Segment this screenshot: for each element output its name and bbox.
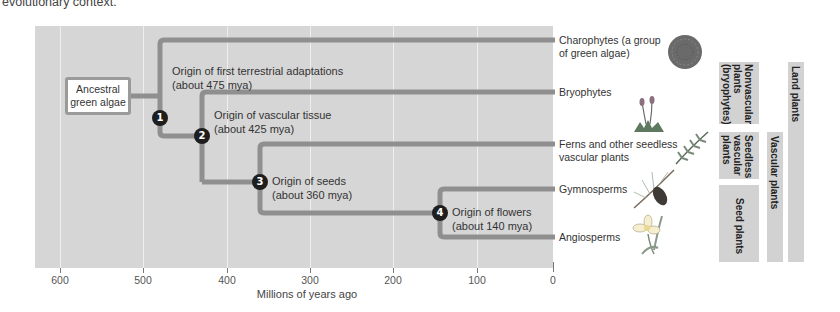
event-label-seeds: Origin of seeds (about 360 mya) bbox=[272, 175, 352, 202]
node-marker-3: 3 bbox=[252, 174, 268, 190]
node-marker-1: 1 bbox=[152, 110, 168, 126]
group-label-land: Land plants bbox=[790, 66, 801, 262]
group-label-seed: Seed plants bbox=[734, 198, 745, 260]
phylogenetic-tree bbox=[0, 0, 840, 312]
ancestral-green-algae-box: Ancestral green algae bbox=[65, 77, 131, 115]
group-label-nonvascular: Nonvascular plants (bryophytes) bbox=[721, 64, 754, 122]
taxon-angiosperms: Angiosperms bbox=[559, 231, 620, 244]
taxon-gymnosperms: Gymnosperms bbox=[559, 183, 627, 196]
node-marker-2: 2 bbox=[194, 128, 210, 144]
event-date: (about 360 mya) bbox=[272, 189, 352, 203]
event-title: Origin of first terrestrial adaptations bbox=[172, 65, 343, 79]
fern-icon bbox=[672, 128, 712, 168]
flower-icon bbox=[628, 210, 668, 256]
event-date: (about 425 mya) bbox=[214, 123, 331, 137]
moss-icon bbox=[630, 94, 670, 134]
taxon-charophytes: Charophytes (a group of green algae) bbox=[559, 34, 669, 60]
event-label-vascular: Origin of vascular tissue (about 425 mya… bbox=[214, 109, 331, 136]
node-marker-4: 4 bbox=[432, 205, 448, 221]
group-label-seedless: Seedless vascular plants bbox=[721, 135, 754, 179]
group-label-vascular: Vascular plants bbox=[769, 136, 780, 262]
event-title: Origin of flowers bbox=[452, 206, 532, 220]
charophyte-icon bbox=[665, 32, 705, 72]
event-label-flowers: Origin of flowers (about 140 mya) bbox=[452, 206, 532, 233]
taxon-ferns: Ferns and other seedless vascular plants bbox=[559, 138, 679, 164]
event-label-terrestrial: Origin of first terrestrial adaptations … bbox=[172, 65, 343, 92]
taxon-bryophytes: Bryophytes bbox=[559, 86, 612, 99]
event-date: (about 475 mya) bbox=[172, 79, 343, 93]
pine-cone-icon bbox=[630, 166, 680, 210]
event-date: (about 140 mya) bbox=[452, 220, 532, 234]
event-title: Origin of vascular tissue bbox=[214, 109, 331, 123]
event-title: Origin of seeds bbox=[272, 175, 352, 189]
